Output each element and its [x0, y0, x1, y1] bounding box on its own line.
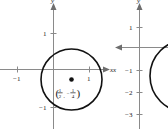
- left-panel-x-tick-label-neg1: −1: [13, 75, 21, 83]
- right-panel-x-axis-arrow: [115, 45, 122, 51]
- right-panel-y-tick-label-neg3: −3: [125, 111, 133, 119]
- math-figure: x y −1 1 1 −1 ( 1 2 , − 1: [0, 0, 168, 129]
- left-panel-y-tick-label-1: 1: [43, 30, 47, 38]
- label-close-paren: ): [77, 87, 81, 100]
- left-panel-x-tick-label-1: 1: [87, 75, 91, 83]
- left-panel-y-axis-label: y: [50, 0, 55, 5]
- left-panel: x y −1 1 1 −1 ( 1 2 , − 1: [0, 0, 117, 129]
- right-panel-y-tick-label-1: 1: [129, 24, 133, 32]
- left-panel-y-tick-label-neg1: −1: [39, 104, 47, 112]
- right-panel-y-tick-label-neg1: −1: [125, 67, 133, 75]
- left-panel-center-point: [69, 77, 74, 82]
- label-y-denominator: 4: [72, 94, 75, 99]
- label-y-numerator: 1: [72, 88, 75, 93]
- label-x-numerator: 1: [59, 88, 62, 93]
- left-panel-center-point-label: ( 1 2 , − 1 4 ): [56, 87, 81, 100]
- right-panel: x y 1 −1 −2 −3: [109, 0, 168, 129]
- right-panel-circle: [150, 40, 168, 112]
- left-panel-x-axis-arrow: [103, 67, 110, 73]
- right-panel-y-tick-label-neg2: −2: [125, 89, 133, 97]
- label-x-denominator: 2: [59, 94, 62, 99]
- label-y-sign: −: [67, 91, 70, 96]
- label-comma: ,: [64, 93, 65, 99]
- right-panel-y-axis-label: y: [136, 0, 141, 5]
